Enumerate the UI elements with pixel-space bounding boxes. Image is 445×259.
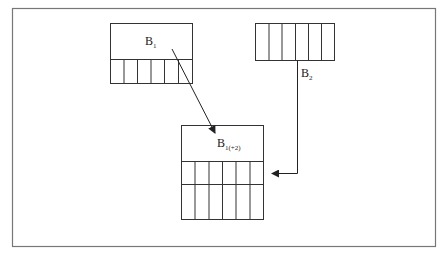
label-b1-plus-2: B1(+2) <box>217 136 241 152</box>
arrow-b1-to-merged <box>172 49 215 133</box>
outer-frame <box>13 9 436 247</box>
label-b2: B2 <box>301 66 313 82</box>
arrow-b2-to-merged <box>272 61 298 174</box>
block-b2 <box>256 24 335 61</box>
diagram-canvas <box>0 0 445 259</box>
label-b1: B1 <box>145 34 157 50</box>
block-b1 <box>111 24 193 84</box>
